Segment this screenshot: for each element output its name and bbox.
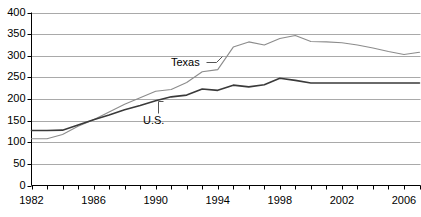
- x-tick-label: 1994: [193, 195, 243, 206]
- y-tick-label: 250: [7, 71, 25, 82]
- x-axis-ticks: [33, 186, 421, 190]
- x-tick-label: 1986: [69, 195, 119, 206]
- chart-plot-area: [0, 0, 421, 217]
- x-tick-label: 1990: [131, 195, 181, 206]
- y-tick-label: 200: [7, 93, 25, 104]
- x-tick-label: 1982: [7, 195, 57, 206]
- y-tick-label: 100: [7, 136, 25, 147]
- series-label-texas: Texas: [171, 57, 200, 68]
- leader-line-us: [159, 102, 164, 114]
- y-tick-label: 350: [7, 28, 25, 39]
- y-tick-label: 150: [7, 115, 25, 126]
- x-tick-label: 2002: [317, 195, 367, 206]
- y-tick-label: 400: [7, 7, 25, 18]
- x-tick-label: 1998: [255, 195, 305, 206]
- series-line-us: [32, 78, 420, 130]
- y-tick-label: 50: [13, 158, 25, 169]
- series-lines: [32, 35, 420, 138]
- gridlines: [32, 14, 421, 165]
- leader-line-texas: [207, 57, 223, 63]
- y-tick-label: 300: [7, 50, 25, 61]
- y-axis-ticks: [28, 14, 32, 187]
- series-label-us: U.S.: [143, 115, 164, 126]
- line-chart: 050100150200250300350400 198219861990199…: [0, 0, 421, 217]
- x-tick-label: 2006: [379, 195, 421, 206]
- y-tick-label: 0: [19, 180, 25, 191]
